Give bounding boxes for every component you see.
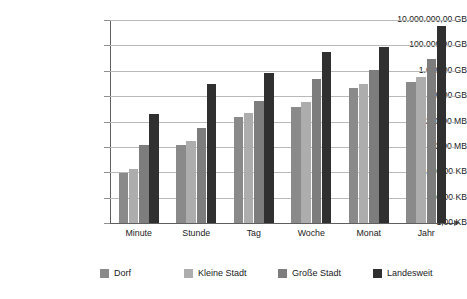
legend-item[interactable]: Kleine Stadt <box>184 268 247 278</box>
bar <box>359 84 369 223</box>
legend-item-label: Große Stadt <box>292 268 341 278</box>
bar <box>254 101 264 223</box>
bar <box>369 70 379 223</box>
gridline <box>110 20 455 21</box>
bar <box>291 107 301 223</box>
bar <box>312 79 322 223</box>
bar-group <box>119 20 159 223</box>
bar-chart: 10.000.000,00 GB100.000,00 GB1.000,00 GB… <box>0 0 467 299</box>
gridline <box>110 147 455 148</box>
bar <box>379 47 389 223</box>
bar <box>207 84 217 223</box>
bar-group <box>291 20 331 223</box>
bar <box>197 128 207 223</box>
bar <box>176 145 186 223</box>
legend-item[interactable]: Große Stadt <box>278 268 341 278</box>
bar-group <box>406 20 446 223</box>
bar-group <box>234 20 274 223</box>
bar <box>119 173 129 223</box>
gridline <box>110 96 455 97</box>
legend-swatch-icon <box>278 269 287 278</box>
x-axis-tick-label: Monat <box>340 228 398 238</box>
x-axis-tick-label: Woche <box>283 228 341 238</box>
bar <box>264 73 274 223</box>
x-axis-tick-label: Minute <box>110 228 168 238</box>
legend-swatch-icon <box>100 269 109 278</box>
y-axis-tick-mark <box>104 223 110 224</box>
gridline <box>110 45 455 46</box>
plot-area <box>110 20 455 223</box>
bar <box>322 52 332 223</box>
x-axis-tick-label: Jahr <box>398 228 456 238</box>
bar <box>129 169 139 223</box>
bar-group <box>176 20 216 223</box>
bar <box>406 82 416 223</box>
bar <box>186 141 196 223</box>
legend-swatch-icon <box>373 269 382 278</box>
bar <box>149 114 159 223</box>
bar <box>437 26 447 223</box>
gridline <box>110 71 455 72</box>
bar <box>139 145 149 223</box>
legend-item-label: Landesweit <box>387 268 433 278</box>
gridline <box>110 198 455 199</box>
bar <box>427 59 437 223</box>
legend-swatch-icon <box>184 269 193 278</box>
x-axis-tick-label: Stunde <box>168 228 226 238</box>
bar <box>301 102 311 223</box>
bar-group <box>349 20 389 223</box>
legend-item[interactable]: Dorf <box>100 268 131 278</box>
bar <box>349 88 359 223</box>
legend-item-label: Dorf <box>114 268 131 278</box>
chart-legend: DorfKleine StadtGroße StadtLandesweit <box>0 268 467 290</box>
gridline <box>110 122 455 123</box>
bar <box>244 113 254 223</box>
bar <box>234 117 244 223</box>
legend-item[interactable]: Landesweit <box>373 268 433 278</box>
gridline <box>110 172 455 173</box>
x-axis-tick-label: Tag <box>225 228 283 238</box>
bar <box>416 77 426 223</box>
legend-item-label: Kleine Stadt <box>198 268 247 278</box>
